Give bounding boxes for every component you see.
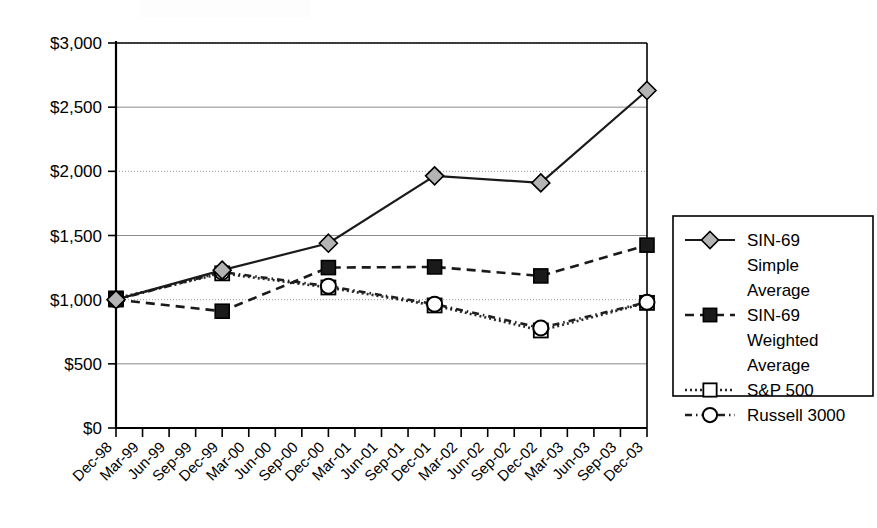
legend-entry-label: Russell 3000 [747,406,845,425]
y-axis-labels: $0$500$1,000$1,500$2,000$2,500$3,000 [50,34,102,438]
legend-entry-label: Average [747,356,810,375]
x-tick-mark-group [116,428,647,437]
legend-entry-label: Average [747,281,810,300]
marker-circle-open [321,279,336,294]
marker-circle-open [703,408,717,422]
marker-square-open [703,383,716,396]
marker-circle-open [640,295,655,310]
marker-square-filled [534,269,548,283]
y-axis-tick-label: $3,000 [50,34,102,53]
gridline-group [116,43,647,364]
legend-entry-label: SIN-69 [747,231,800,250]
y-axis-tick-label: $500 [64,355,102,374]
legend-entry-label: Simple [747,256,799,275]
series-line-group [116,90,647,330]
marker-square-filled [428,260,442,274]
marker-diamond [319,234,337,252]
marker-square-filled [703,308,716,321]
x-axis-labels: Dec-98Mar-99Jun-99Sep-99Dec-99Mar-00Jun-… [69,438,646,484]
marker-diamond [426,167,444,185]
legend-entry-label: Weighted [747,331,819,350]
y-axis-tick-label: $0 [83,419,102,438]
marker-circle-open [427,297,442,312]
chart-container: $0$500$1,000$1,500$2,000$2,500$3,000 Dec… [0,0,877,528]
marker-square-filled [640,238,654,252]
legend-entry-label: SIN-69 [747,306,800,325]
y-axis-tick-label: $1,500 [50,227,102,246]
y-axis-tick-label: $2,500 [50,98,102,117]
marker-square-filled [215,304,229,318]
y-tick-mark-group [108,43,116,428]
plot-frame [115,41,647,428]
marker-square-filled [321,261,335,275]
legend-entry-label: S&P 500 [747,381,814,400]
series-line-s-p-500 [116,273,647,330]
chart-legend: SIN-69SimpleAverageSIN-69WeightedAverage… [673,216,873,425]
marker-circle-open [533,320,548,335]
y-axis-tick-label: $1,000 [50,291,102,310]
y-axis-tick-label: $2,000 [50,162,102,181]
investment-growth-line-chart: $0$500$1,000$1,500$2,000$2,500$3,000 Dec… [0,0,877,528]
